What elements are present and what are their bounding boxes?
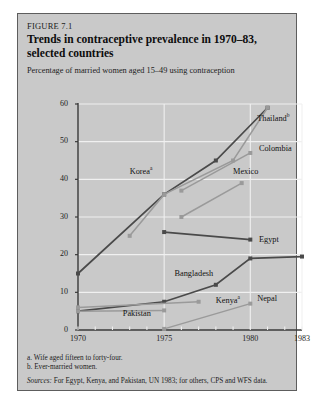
series-marker-kenya bbox=[197, 300, 201, 304]
x-axis-tick-label: 1983 bbox=[287, 334, 315, 343]
series-label-mexico: Mexico bbox=[233, 167, 258, 176]
series-line-egypt bbox=[164, 232, 250, 240]
figure-number: FIGURE 7.1 bbox=[27, 21, 289, 31]
series-marker-korea bbox=[128, 234, 132, 238]
x-axis-tick-label: 1980 bbox=[235, 334, 265, 343]
series-label-korea: Koreaa bbox=[130, 165, 153, 176]
series-marker-kenya bbox=[76, 305, 80, 309]
series-marker-korea bbox=[162, 192, 166, 196]
source-label: Sources: bbox=[27, 377, 52, 385]
figure-source: Sources: For Egypt, Kenya, and Pakistan,… bbox=[27, 377, 289, 386]
series-marker-mexico bbox=[179, 215, 183, 219]
x-axis-tick-label: 1975 bbox=[149, 334, 179, 343]
series-line-mexico bbox=[181, 183, 241, 217]
source-text: For Egypt, Kenya, and Pakistan, UN 1983;… bbox=[52, 377, 267, 385]
figure-title-line2: selected countries bbox=[27, 47, 114, 59]
series-marker-pakistan bbox=[162, 308, 166, 312]
figure-title-line1: Trends in contraceptive prevalence in 19… bbox=[27, 33, 257, 45]
series-marker-bangladesh bbox=[248, 256, 252, 260]
figure-title: Trends in contraceptive prevalence in 19… bbox=[27, 33, 289, 60]
x-axis-tick-label: 1970 bbox=[63, 334, 93, 343]
series-marker-colombia bbox=[248, 151, 252, 155]
series-marker-pakistan bbox=[76, 309, 80, 313]
series-marker-nepal bbox=[162, 327, 166, 331]
series-line-bangladesh bbox=[78, 257, 302, 312]
series-label-thailand: Thailandb bbox=[257, 112, 289, 123]
series-marker-colombia bbox=[179, 189, 183, 193]
figure-notes: a. Wife aged fifteen to forty-four. b. E… bbox=[27, 354, 289, 386]
chart-plot-area: 01020304050601970197519801983ThailandbKo… bbox=[56, 102, 304, 332]
series-label-colombia: Colombia bbox=[259, 144, 292, 153]
y-axis-tick-label: 60 bbox=[50, 99, 68, 108]
series-label-nepal: Nepal bbox=[257, 294, 277, 303]
series-marker-nepal bbox=[248, 302, 252, 306]
series-marker-mexico bbox=[240, 181, 244, 185]
series-marker-bangladesh bbox=[300, 255, 304, 259]
series-line-kenya bbox=[78, 302, 199, 308]
series-marker-korea bbox=[266, 106, 270, 110]
series-line-pakistan bbox=[78, 310, 164, 311]
y-axis-tick-label: 20 bbox=[50, 249, 68, 258]
series-label-egypt: Egypt bbox=[259, 235, 279, 244]
series-marker-egypt bbox=[162, 230, 166, 234]
figure-subtitle: Percentage of married women aged 15–49 u… bbox=[27, 66, 289, 75]
y-axis-tick-label: 40 bbox=[50, 174, 68, 183]
series-label-bangladesh: Bangladesh bbox=[174, 269, 213, 278]
series-marker-thailand bbox=[214, 159, 218, 163]
note-b: b. Ever-married women. bbox=[27, 363, 289, 372]
figure-card: FIGURE 7.1 Trends in contraceptive preva… bbox=[17, 13, 297, 391]
series-line-nepal bbox=[164, 304, 250, 329]
figure-header: FIGURE 7.1 Trends in contraceptive preva… bbox=[27, 21, 289, 75]
note-a: a. Wife aged fifteen to forty-four. bbox=[27, 354, 289, 363]
series-marker-bangladesh bbox=[214, 283, 218, 287]
series-label-kenya: Kenyaa bbox=[216, 294, 240, 305]
y-axis-tick-label: 0 bbox=[50, 325, 68, 334]
series-label-pakistan: Pakistan bbox=[123, 309, 151, 318]
series-marker-egypt bbox=[248, 238, 252, 242]
y-axis-tick-label: 50 bbox=[50, 136, 68, 145]
y-axis-tick-label: 10 bbox=[50, 287, 68, 296]
y-axis-tick-label: 30 bbox=[50, 212, 68, 221]
series-marker-thailand bbox=[76, 272, 80, 276]
